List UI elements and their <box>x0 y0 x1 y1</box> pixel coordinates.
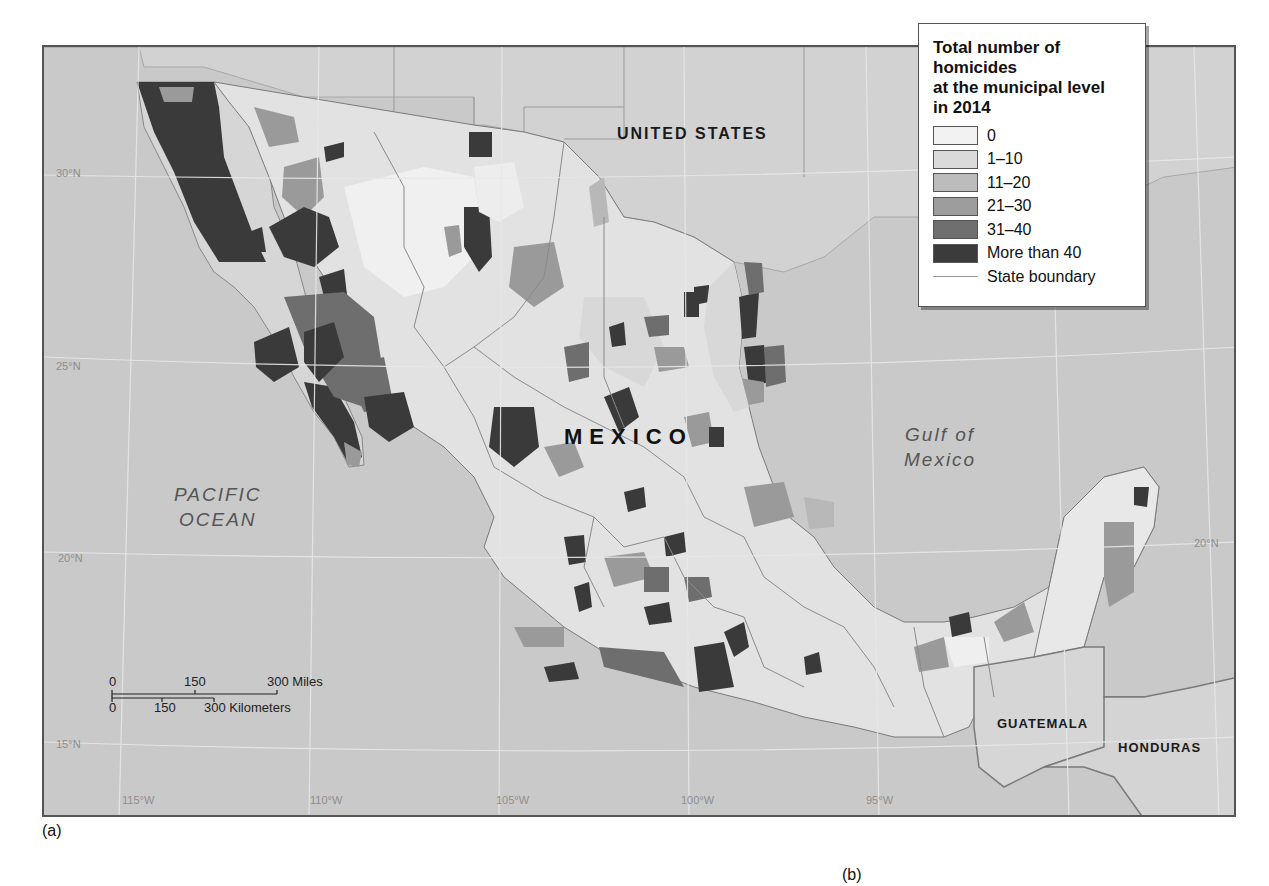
legend-item-1-10: 1–10 <box>933 148 1135 172</box>
legend-item-0: 0 <box>933 124 1135 148</box>
lat-label-20n-right: 20°N <box>1194 537 1219 549</box>
legend-item-state-boundary: State boundary <box>933 265 1135 289</box>
lon-label-105w: 105°W <box>496 794 529 806</box>
lat-label-25n: 25°N <box>56 360 81 372</box>
scale-bar: 0 150 300 Miles 0 150 300 Kilometers <box>109 674 339 714</box>
lon-label-95w: 95°W <box>866 794 893 806</box>
label-pacific-ocean: PACIFIC OCEAN <box>174 482 262 532</box>
legend-swatch-21-30 <box>933 197 978 216</box>
legend-label: State boundary <box>987 268 1096 286</box>
label-guatemala: GUATEMALA <box>997 716 1088 731</box>
legend-item-11-20: 11–20 <box>933 171 1135 195</box>
legend-title: Total number of homicides at the municip… <box>933 38 1135 118</box>
legend-label: 0 <box>987 127 996 145</box>
legend-swatch-0 <box>933 126 978 145</box>
scale-km-300: 300 Kilometers <box>204 700 291 715</box>
legend-label: 11–20 <box>987 174 1030 192</box>
map-legend: Total number of homicides at the municip… <box>918 23 1146 307</box>
scale-miles-0: 0 <box>109 674 116 689</box>
label-mexico: MEXICO <box>564 424 693 450</box>
legend-label: More than 40 <box>987 244 1081 262</box>
legend-label: 31–40 <box>987 221 1032 239</box>
legend-label: 21–30 <box>987 197 1032 215</box>
scale-km-150: 150 <box>154 700 176 715</box>
legend-item-21-30: 21–30 <box>933 195 1135 219</box>
lat-label-15n: 15°N <box>56 738 81 750</box>
legend-swatch-31-40 <box>933 220 978 239</box>
lon-label-100w: 100°W <box>681 794 714 806</box>
legend-label: 1–10 <box>987 150 1023 168</box>
state-boundary-line-icon <box>933 276 978 277</box>
lon-label-110w: 110°W <box>310 794 342 806</box>
legend-item-31-40: 31–40 <box>933 218 1135 242</box>
label-honduras: HONDURAS <box>1118 740 1201 755</box>
legend-swatch-11-20 <box>933 173 978 192</box>
lon-label-115w: 115°W <box>122 794 154 806</box>
legend-swatch-1-10 <box>933 150 978 169</box>
legend-swatch-over-40 <box>933 244 978 263</box>
scale-miles-300: 300 Miles <box>267 674 323 689</box>
scale-km-0: 0 <box>109 700 116 715</box>
scale-miles-150: 150 <box>184 674 206 689</box>
caption-a: (a) <box>42 822 62 840</box>
lat-label-30n: 30°N <box>56 167 81 179</box>
legend-item-over-40: More than 40 <box>933 242 1135 266</box>
label-united-states: UNITED STATES <box>617 125 768 143</box>
label-gulf-of-mexico: Gulf of Mexico <box>904 422 976 472</box>
caption-b: (b) <box>842 866 862 884</box>
lat-label-20n: 20°N <box>58 552 83 564</box>
